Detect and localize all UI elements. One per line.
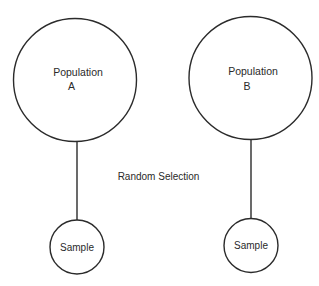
sample-b-node: Sample bbox=[224, 219, 278, 273]
random-selection-label: Random Selection bbox=[118, 171, 200, 182]
population-b-label: Population bbox=[228, 65, 278, 77]
sample-a-node: Sample bbox=[50, 220, 104, 274]
sampling-diagram: Population A Sample Population B Sample … bbox=[0, 0, 319, 286]
sample-a-label: Sample bbox=[60, 242, 94, 253]
population-a-id: A bbox=[68, 80, 75, 92]
sample-b-label: Sample bbox=[234, 240, 268, 251]
population-b-node: Population B bbox=[189, 17, 312, 140]
population-a-label: Population bbox=[53, 66, 103, 78]
population-a-node: Population A bbox=[14, 19, 137, 142]
population-b-id: B bbox=[243, 80, 250, 92]
population-b-circle bbox=[189, 17, 312, 140]
